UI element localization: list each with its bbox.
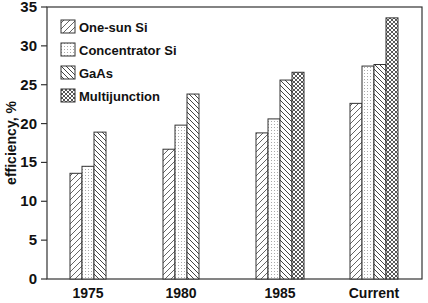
bar-one-sun-si — [256, 133, 268, 279]
legend-label: Multijunction — [79, 89, 160, 104]
bar-multijunction — [292, 72, 304, 279]
legend-swatch — [61, 66, 75, 79]
legend-label: Concentrator Si — [79, 43, 177, 58]
bar-concentrator-si — [175, 125, 187, 279]
bar-gaas — [94, 132, 106, 279]
y-tick-label: 35 — [20, 0, 37, 15]
legend-label: One-sun Si — [79, 20, 148, 35]
bar-group-1980 — [163, 94, 199, 279]
x-tick-label: Current — [349, 285, 400, 301]
bar-concentrator-si — [82, 166, 94, 279]
bar-group-1985 — [256, 72, 304, 279]
legend-label: GaAs — [79, 66, 113, 81]
bar-one-sun-si — [70, 173, 82, 279]
legend-swatch — [61, 89, 75, 102]
bar-gaas — [187, 94, 199, 279]
y-tick-label: 25 — [20, 76, 37, 93]
x-tick-label: 1980 — [165, 285, 196, 301]
legend-item: Concentrator Si — [61, 43, 177, 58]
legend-item: GaAs — [61, 66, 113, 81]
bar-one-sun-si — [163, 149, 175, 279]
y-tick-label: 0 — [29, 270, 37, 287]
y-tick-label: 15 — [20, 153, 37, 170]
legend-item: One-sun Si — [61, 20, 148, 35]
efficiency-bar-chart: 05101520253035 197519801985Current One-s… — [0, 0, 428, 303]
y-tick-label: 20 — [20, 115, 37, 132]
y-axis: 05101520253035 — [20, 0, 47, 287]
bar-gaas — [374, 65, 386, 279]
bar-gaas — [280, 80, 292, 279]
x-tick-label: 1975 — [72, 285, 103, 301]
x-tick-label: 1985 — [264, 285, 295, 301]
y-tick-label: 30 — [20, 37, 37, 54]
bar-one-sun-si — [350, 103, 362, 279]
y-tick-label: 5 — [29, 231, 37, 248]
bar-group-current — [350, 18, 398, 279]
bar-multijunction — [386, 18, 398, 279]
bar-concentrator-si — [268, 119, 280, 279]
y-axis-title: efficiency, % — [3, 101, 19, 185]
legend: One-sun SiConcentrator SiGaAsMultijuncti… — [61, 20, 177, 104]
legend-item: Multijunction — [61, 89, 160, 104]
legend-swatch — [61, 20, 75, 33]
legend-swatch — [61, 43, 75, 56]
x-axis: 197519801985Current — [72, 285, 399, 301]
bar-group-1975 — [70, 132, 106, 279]
bar-concentrator-si — [362, 66, 374, 279]
y-tick-label: 10 — [20, 192, 37, 209]
